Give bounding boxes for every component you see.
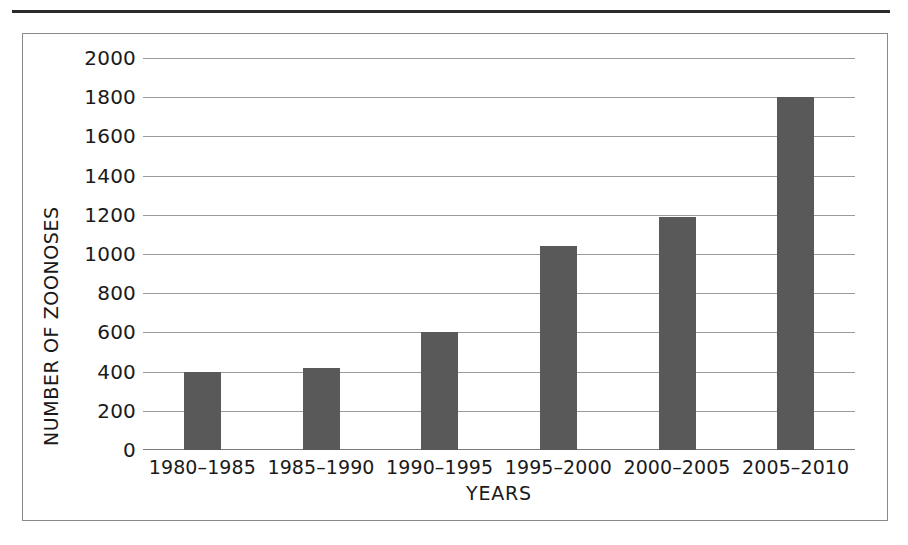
bar-1995-2000 [540, 246, 577, 450]
x-axis-tick-label: 1990–1995 [375, 454, 505, 480]
y-axis-title: NUMBER OF ZOONOSES [40, 54, 64, 446]
x-axis-tick-label: 2000–2005 [612, 454, 742, 480]
bar-chart: 2000 1800 1600 1400 1200 1000 800 600 40… [0, 0, 908, 545]
x-axis-tick-label: 1980–1985 [137, 454, 267, 480]
x-axis-tick-labels: 1980–1985 1985–1990 1990–1995 1995–2000 … [143, 454, 855, 482]
x-axis-tick-label: 1995–2000 [493, 454, 623, 480]
x-axis-tick-label: 1985–1990 [256, 454, 386, 480]
bar-series [143, 58, 855, 450]
x-axis-title: YEARS [143, 482, 855, 504]
bar-2005-2010 [777, 97, 814, 450]
x-axis-tick-label: 2005–2010 [731, 454, 861, 480]
bar-1980-1985 [184, 372, 221, 450]
bar-1985-1990 [303, 368, 340, 450]
bar-1990-1995 [421, 332, 458, 450]
bar-2000-2005 [659, 217, 696, 450]
